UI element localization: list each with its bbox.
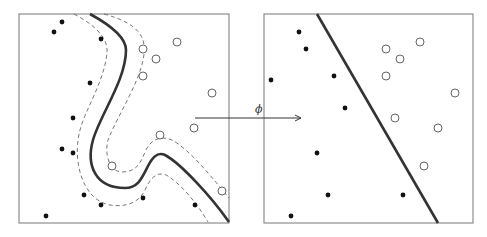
open-point <box>434 124 442 132</box>
filled-point <box>141 196 146 201</box>
open-point <box>382 45 390 53</box>
open-point <box>156 131 164 139</box>
phi-label: ϕ <box>255 103 263 116</box>
filled-point <box>269 78 274 83</box>
open-point <box>152 55 160 63</box>
filled-point <box>44 214 49 219</box>
kernel-mapping-diagram <box>0 0 487 237</box>
open-point <box>416 38 424 46</box>
open-point <box>420 162 428 170</box>
filled-point <box>315 151 320 156</box>
filled-point <box>193 203 198 208</box>
filled-point <box>88 81 93 86</box>
filled-point <box>99 37 104 42</box>
filled-point <box>52 30 57 35</box>
open-point <box>451 89 459 97</box>
filled-point <box>71 151 76 156</box>
open-point <box>139 72 147 80</box>
filled-point <box>332 74 337 79</box>
open-point <box>218 187 226 195</box>
right-filled-points <box>269 30 406 219</box>
filled-point <box>326 193 331 198</box>
filled-point <box>401 193 406 198</box>
filled-point <box>289 214 294 219</box>
open-point <box>139 45 147 53</box>
filled-point <box>99 203 104 208</box>
open-point <box>382 72 390 80</box>
filled-point <box>71 116 76 121</box>
filled-point <box>60 20 65 25</box>
open-point <box>391 114 399 122</box>
open-point <box>396 55 404 63</box>
filled-point <box>297 30 302 35</box>
filled-point <box>60 147 65 152</box>
filled-point <box>304 47 309 52</box>
open-point <box>108 162 116 170</box>
filled-point <box>82 193 87 198</box>
right-open-points <box>382 38 459 170</box>
filled-point <box>343 106 348 111</box>
open-point <box>208 89 216 97</box>
open-point <box>173 38 181 46</box>
open-point <box>190 124 198 132</box>
